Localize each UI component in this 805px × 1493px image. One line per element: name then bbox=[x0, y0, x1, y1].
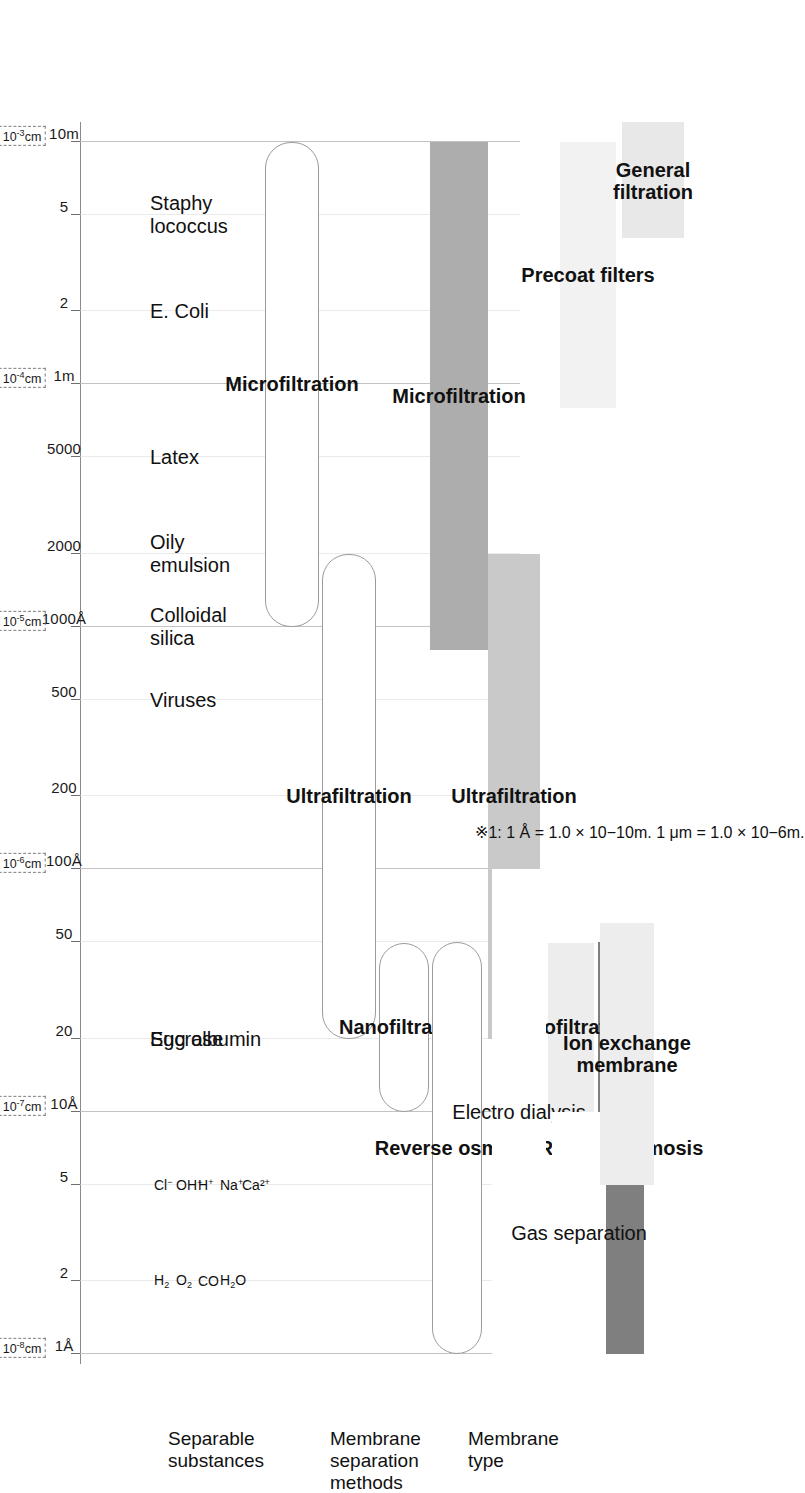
gridline-500 bbox=[80, 699, 520, 700]
ion-chloride-ion: Cl− bbox=[154, 1176, 173, 1193]
substance-viruses: Viruses bbox=[150, 688, 216, 711]
footnote: ※1: 1 Å = 1.0 × 10−10m. 1 μm = 1.0 × 10−… bbox=[475, 823, 804, 842]
membrane-bar-label-precoat-filters: Precoat filters bbox=[521, 264, 654, 286]
tick-label-2: 2 bbox=[60, 1264, 69, 1281]
gas-water-molecule: H2O bbox=[220, 1272, 246, 1291]
tick-label-500: 500 bbox=[51, 683, 77, 700]
substance-latex: Latex bbox=[150, 446, 199, 469]
gas-hydrogen-molecule: H2 bbox=[154, 1272, 169, 1291]
decade-marker-15: 10-3cm bbox=[0, 126, 45, 146]
tick-label-5: 5 bbox=[60, 198, 69, 215]
ion-sodium-ion: Na+ bbox=[220, 1176, 243, 1193]
substance-colloidal-silica: Colloidal silica bbox=[150, 604, 227, 650]
tick-label-2000: 2000 bbox=[47, 537, 81, 554]
tick-label-1: 1Å bbox=[55, 1337, 74, 1354]
tick-label-200: 200 bbox=[51, 779, 77, 796]
decade-marker-12: 10-4cm bbox=[0, 368, 45, 388]
tick-label-5000: 5000 bbox=[47, 440, 81, 457]
row-label-separable-substances: Separable substances bbox=[168, 1428, 264, 1472]
tick-label-20: 20 bbox=[55, 1022, 72, 1039]
tick-label-1m: 1m bbox=[53, 367, 74, 384]
gridline-100 bbox=[80, 868, 520, 869]
tick-label-50: 50 bbox=[55, 925, 72, 942]
size-axis-line bbox=[80, 122, 81, 1364]
decade-marker-6: 10-6cm bbox=[0, 853, 45, 873]
tick-label-2: 2 bbox=[60, 294, 69, 311]
tick-14 bbox=[71, 214, 80, 215]
tick-label-5: 5 bbox=[60, 1168, 69, 1185]
decade-marker-0: 10-8cm bbox=[0, 1338, 45, 1358]
method-label-microfiltration: Microfiltration bbox=[225, 373, 358, 396]
substance-sucrose: Sucrose bbox=[150, 1027, 223, 1050]
decade-marker-3: 10-7cm bbox=[0, 1095, 45, 1115]
decade-marker-9: 10-5cm bbox=[0, 611, 45, 631]
ion-hydrogen-ion: H+ bbox=[198, 1176, 213, 1193]
substance-oily-emulsion: Oily emulsion bbox=[150, 531, 230, 577]
row-label-membrane-type: Membrane type bbox=[468, 1428, 559, 1472]
tick-1 bbox=[71, 1280, 80, 1281]
tick-label-10: 10Å bbox=[50, 1095, 77, 1112]
gas-carbon-monoxide: CO bbox=[198, 1273, 219, 1289]
tick-label-100: 100Å bbox=[46, 852, 82, 869]
tick-2 bbox=[71, 1184, 80, 1185]
method-label-ultrafiltration: Ultrafiltration bbox=[286, 785, 412, 808]
substance-staphylococcus: Staphy lococcus bbox=[150, 192, 228, 238]
tick-label-10m: 10m bbox=[49, 125, 79, 142]
ion-calcium-ion: Ca²+ bbox=[242, 1176, 270, 1193]
membrane-bar-label-microfiltration-membrane: Microfiltration bbox=[392, 385, 525, 407]
tick-label-1000: 1000Å bbox=[42, 610, 86, 627]
membrane-bar-label-gas-separation: Gas separation bbox=[511, 1222, 647, 1244]
membrane-bar-label-ultrafiltration-membrane: Ultrafiltration bbox=[451, 785, 577, 807]
tick-13 bbox=[71, 310, 80, 311]
membrane-bar-label-ion-exchange-membrane: Ion exchange membrane bbox=[563, 1032, 691, 1077]
substance-e-coli: E. Coli bbox=[150, 300, 209, 323]
row-label-membrane-separation-methods: Membrane separation methods bbox=[330, 1428, 421, 1493]
membrane-bar-label-general-filtration: General filtration bbox=[613, 159, 693, 204]
gas-oxygen-molecule: O2 bbox=[176, 1272, 192, 1291]
